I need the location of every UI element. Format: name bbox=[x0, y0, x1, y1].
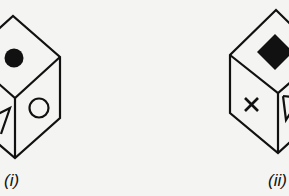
dice-figure: (i) (ii) bbox=[0, 0, 289, 196]
triangle-icon bbox=[283, 96, 289, 120]
cube-i-outline bbox=[0, 16, 60, 158]
cube-ii bbox=[230, 10, 289, 153]
cube-ii-outline bbox=[230, 10, 289, 153]
triangle-icon bbox=[0, 108, 10, 134]
cube-diagram bbox=[0, 0, 289, 196]
cube-i bbox=[0, 16, 60, 158]
filled-diamond-icon bbox=[257, 34, 289, 70]
cube-ii-label: (ii) bbox=[268, 172, 287, 189]
cube-i-label: (i) bbox=[4, 172, 19, 189]
cross-icon bbox=[245, 98, 258, 111]
open-circle-icon bbox=[30, 99, 49, 118]
filled-circle-icon bbox=[5, 49, 24, 68]
